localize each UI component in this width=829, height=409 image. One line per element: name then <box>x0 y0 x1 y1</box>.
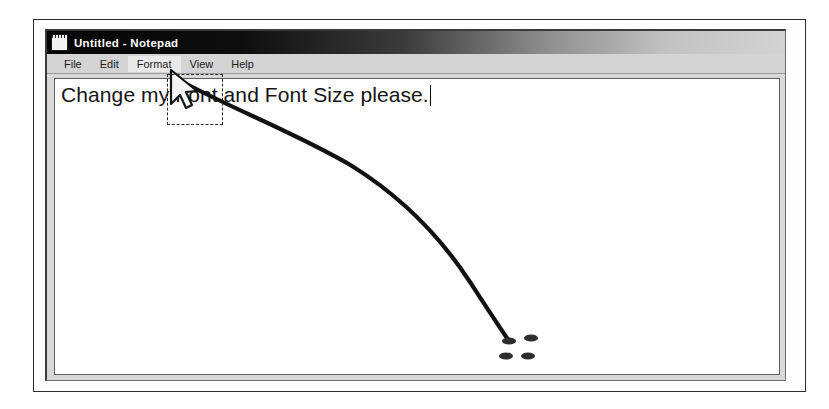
notepad-document-icon <box>51 34 68 51</box>
window-title-bar[interactable]: Untitled - Notepad <box>47 31 785 54</box>
window-title: Untitled - Notepad <box>74 37 178 49</box>
text-caret <box>430 85 432 106</box>
menu-item-view[interactable]: View <box>181 56 223 72</box>
menu-item-edit[interactable]: Edit <box>91 56 128 72</box>
document-text-content: Change my Font and Font Size please. <box>61 83 429 106</box>
figure-border: Untitled - Notepad File Edit Format View… <box>33 19 806 392</box>
text-editor-area[interactable]: Change my Font and Font Size please. <box>54 78 780 375</box>
menu-item-file[interactable]: File <box>55 56 91 72</box>
menu-item-help[interactable]: Help <box>222 56 263 72</box>
notepad-window: Untitled - Notepad File Edit Format View… <box>45 29 786 381</box>
format-menu-focus-rectangle <box>167 74 223 125</box>
menu-item-format[interactable]: Format <box>128 56 181 72</box>
menu-bar: File Edit Format View Help <box>47 54 785 74</box>
